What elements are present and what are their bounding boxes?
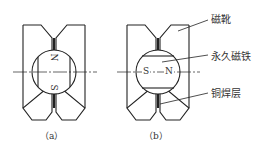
label-braze-layer: 铜焊层	[211, 89, 241, 99]
leader-braze	[160, 93, 208, 104]
south-label-a: S	[49, 84, 58, 90]
north-label-a: N	[49, 54, 58, 62]
south-label-b: S	[142, 67, 150, 76]
caption-b: （b）	[144, 132, 168, 141]
label-pole-shoe: 磁靴	[211, 15, 231, 25]
caption-a: （a）	[40, 132, 63, 141]
label-permanent-magnet: 永久磁铁	[211, 52, 251, 62]
figure-a	[13, 25, 97, 120]
figure-b	[117, 20, 208, 120]
north-label-b: N	[164, 67, 174, 76]
